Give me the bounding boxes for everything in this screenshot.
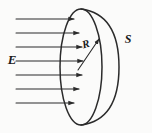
radius-label: R (79, 37, 90, 51)
hemispherical-surface-group (60, 9, 119, 125)
surface-label: S (125, 32, 132, 46)
hemisphere-bulge-arc (81, 9, 119, 125)
figure-canvas: E S R (0, 0, 152, 133)
electric-field-lines-group (16, 19, 83, 103)
field-label: E (7, 52, 17, 67)
physics-figure-hemisphere-in-field: E S R (0, 0, 152, 133)
rim-ellipse (60, 9, 102, 125)
